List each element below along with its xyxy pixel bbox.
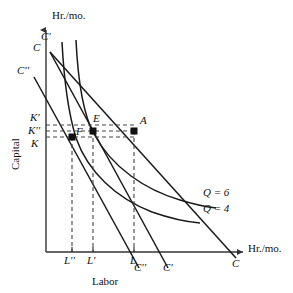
isocost-label-c-double-prime-left: C'' xyxy=(17,65,29,76)
isocost-line-c-double-prime xyxy=(34,77,139,268)
marker-point-e xyxy=(90,128,97,135)
axis-group xyxy=(46,30,243,252)
capital-tick-k-double-prime: K'' xyxy=(28,125,40,136)
isocost-label-c-top: C xyxy=(33,42,40,53)
isocost-label-c-prime-bottom: C' xyxy=(163,262,173,273)
point-label-f: F xyxy=(76,126,83,137)
isocost-lines xyxy=(34,52,236,268)
tick-marks xyxy=(72,247,134,252)
isocost-label-c-prime-top: C' xyxy=(41,31,51,42)
marker-point-a xyxy=(131,128,138,135)
x-axis-unit-label: Hr./mo. xyxy=(248,243,282,254)
isoquant-curves xyxy=(62,40,216,223)
x-axis-title-labor: Labor xyxy=(92,276,118,287)
isocost-line-c-prime xyxy=(50,52,168,268)
point-label-e: E xyxy=(93,113,100,124)
y-axis-unit-label: Hr./mo. xyxy=(52,10,86,21)
isocost-line-c xyxy=(50,52,236,258)
guide-lines xyxy=(46,125,134,252)
isoquant-label-q6: Q = 6 xyxy=(203,187,229,198)
isocost-label-c-bottom: C xyxy=(232,258,239,269)
isocost-label-c-double-prime-bottom: C'' xyxy=(134,262,146,273)
isoquant-label-q4: Q = 4 xyxy=(203,203,229,214)
marker-point-f xyxy=(69,134,76,141)
labor-tick-l-double-prime: L'' xyxy=(64,255,75,266)
isoquant-isocost-figure: Hr./mo. Hr./mo. Capital Labor K' K'' K L… xyxy=(0,0,293,293)
point-label-a: A xyxy=(140,115,147,126)
y-axis-title-capital: Capital xyxy=(10,138,21,170)
labor-tick-l-prime: L' xyxy=(87,255,95,266)
capital-tick-k: K xyxy=(31,138,38,149)
capital-tick-k-prime: K' xyxy=(30,112,40,123)
